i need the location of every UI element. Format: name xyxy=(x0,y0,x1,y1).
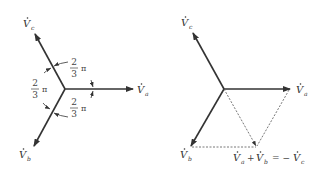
svg-text:c: c xyxy=(301,158,305,165)
angle-label-left: 2 3 π xyxy=(31,78,47,100)
svg-text:2: 2 xyxy=(71,97,77,107)
svg-text:2: 2 xyxy=(32,78,38,88)
vector-vc xyxy=(193,33,224,89)
label-va-right: V a xyxy=(296,83,308,97)
svg-text:π: π xyxy=(81,104,86,113)
svg-text:c: c xyxy=(31,24,35,31)
svg-text:a: a xyxy=(304,90,308,97)
svg-text:2: 2 xyxy=(71,57,77,67)
label-va-left: V a xyxy=(137,83,149,97)
label-vc-left: V c xyxy=(23,17,35,31)
svg-text:b: b xyxy=(188,155,192,162)
svg-text:a: a xyxy=(241,158,245,165)
svg-text:π: π xyxy=(81,64,86,73)
svg-text:= −: = − xyxy=(272,153,290,163)
phasor-diagrams: 2 3 π 2 3 π 2 3 π V c V a V xyxy=(0,0,322,173)
vector-vc xyxy=(35,34,65,89)
label-vb-left: V b xyxy=(19,148,31,162)
vector-vb xyxy=(191,89,224,146)
svg-text:b: b xyxy=(264,158,268,165)
label-vc-right: V c xyxy=(181,16,193,30)
sum-equation-label: V a + V b = − V c xyxy=(233,151,305,165)
svg-text:a: a xyxy=(145,90,149,97)
angle-label-lower: 2 3 π xyxy=(70,97,86,119)
svg-text:b: b xyxy=(27,155,31,162)
right-phasor-diagram: V c V a V b V a + V b = − V c xyxy=(180,16,308,165)
svg-text:3: 3 xyxy=(32,90,38,100)
svg-text:π: π xyxy=(42,85,47,94)
svg-text:+: + xyxy=(247,153,255,163)
svg-text:c: c xyxy=(189,23,193,30)
svg-text:3: 3 xyxy=(71,69,77,79)
left-phasor-diagram: 2 3 π 2 3 π 2 3 π V c V a V xyxy=(19,17,149,162)
angle-label-upper: 2 3 π xyxy=(70,57,86,79)
svg-text:3: 3 xyxy=(71,109,77,119)
vector-vb xyxy=(34,89,65,146)
label-vb-right: V b xyxy=(180,148,192,162)
